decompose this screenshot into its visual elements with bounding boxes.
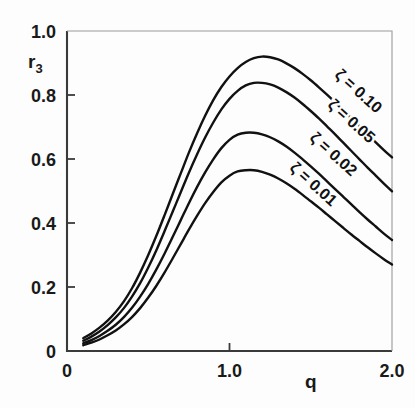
y-tick-label: 0.6 [31,150,56,170]
y-tick-label: 1.0 [31,22,56,42]
line-chart: 00.20.40.60.81.0 01.02.0 ζ = 0.10ζ = 0.1… [0,0,415,408]
y-tick-label: 0.8 [31,86,56,106]
chart-background [0,0,415,408]
y-tick-label: 0 [46,342,56,362]
x-tick-label: 1.0 [217,361,242,381]
y-tick-label: 0.4 [31,214,56,234]
x-axis-title: q [305,371,317,392]
x-tick-label: 2.0 [379,361,404,381]
y-tick-label: 0.2 [31,278,56,298]
figure-container: 00.20.40.60.81.0 01.02.0 ζ = 0.10ζ = 0.1… [0,0,415,408]
x-tick-label: 0 [62,361,72,381]
